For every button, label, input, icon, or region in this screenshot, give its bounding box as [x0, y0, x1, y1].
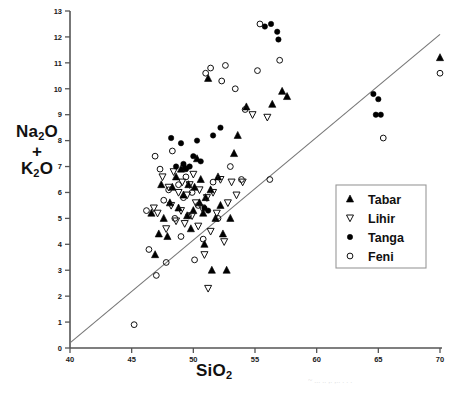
- data-point-tanga: [187, 164, 192, 169]
- data-point-tanga: [194, 138, 199, 143]
- data-point-feni: [257, 21, 263, 27]
- data-point-lihir: [233, 192, 240, 199]
- legend-label: Lihir: [368, 212, 395, 226]
- data-point-feni: [227, 164, 233, 170]
- y-tick-label: 3: [58, 266, 62, 275]
- y-axis-title-line1: Na2O: [6, 123, 68, 143]
- y-tick-label: 11: [54, 59, 62, 68]
- data-point-feni: [161, 197, 167, 203]
- data-point-tabar: [164, 233, 171, 240]
- data-point-tanga: [378, 112, 383, 117]
- data-point-feni: [178, 234, 184, 240]
- y-tick-label: 0: [58, 344, 62, 353]
- x-axis-title: SiO2: [196, 361, 232, 381]
- y-tick-label: 12: [54, 33, 62, 42]
- legend-label: Tanga: [368, 231, 405, 245]
- data-point-tabar: [230, 150, 237, 157]
- data-point-feni: [152, 153, 158, 159]
- data-points: [131, 21, 443, 328]
- data-point-tanga: [168, 135, 173, 140]
- data-point-tanga: [218, 125, 223, 130]
- data-point-tanga: [181, 161, 186, 166]
- data-point-feni: [380, 135, 386, 141]
- data-point-tabar: [279, 87, 286, 94]
- data-point-feni: [203, 70, 209, 76]
- data-point-tabar: [219, 230, 226, 237]
- series-feni: [131, 21, 443, 328]
- data-point-feni: [277, 57, 283, 63]
- data-point-lihir: [228, 179, 235, 186]
- data-point-tabar: [152, 251, 159, 258]
- data-point-lihir: [221, 239, 228, 246]
- data-point-tanga: [376, 96, 381, 101]
- data-point-lihir: [175, 189, 182, 196]
- data-point-lihir: [181, 221, 188, 228]
- data-point-feni: [146, 247, 152, 253]
- chart-figure: 40455055606570012345678910111213 TabarLi…: [0, 0, 462, 393]
- data-point-tabar: [208, 266, 215, 273]
- data-point-feni: [219, 78, 225, 84]
- y-axis-title: Na2O + K2O: [6, 123, 68, 180]
- data-point-tabar: [197, 176, 204, 183]
- y-tick-label: 1: [58, 318, 62, 327]
- data-point-lihir: [264, 114, 271, 121]
- data-point-tabar: [223, 266, 230, 273]
- data-point-feni: [210, 179, 216, 185]
- data-point-feni: [131, 322, 137, 328]
- data-point-lihir: [207, 228, 214, 235]
- data-point-tabar: [227, 214, 234, 221]
- data-point-lihir: [159, 174, 166, 181]
- y-tick-label: 13: [54, 7, 62, 16]
- y-tick-label: 4: [58, 240, 63, 249]
- data-point-tanga: [178, 141, 183, 146]
- data-point-tanga: [373, 112, 378, 117]
- data-point-tanga: [275, 29, 280, 34]
- data-point-lihir: [201, 252, 208, 259]
- data-point-tabar: [158, 181, 165, 188]
- x-tick-label: 65: [374, 355, 382, 364]
- data-point-feni: [267, 177, 273, 183]
- data-point-tabar: [234, 131, 241, 138]
- data-point-feni: [192, 257, 198, 263]
- x-tick-label: 40: [66, 355, 74, 364]
- scatter-plot-canvas: 40455055606570012345678910111213 TabarLi…: [0, 0, 462, 393]
- data-point-tabar: [436, 54, 443, 61]
- legend-marker-tanga: [347, 234, 352, 239]
- y-axis-title-line2: K2O: [6, 160, 68, 180]
- data-point-tabar: [269, 100, 276, 107]
- data-point-lihir: [195, 223, 202, 230]
- data-point-lihir: [224, 200, 231, 207]
- data-point-tanga: [173, 164, 178, 169]
- data-point-lihir: [205, 285, 212, 292]
- data-point-lihir: [249, 112, 256, 119]
- y-tick-label: 10: [54, 85, 62, 94]
- data-point-feni: [200, 236, 206, 242]
- data-point-tabar: [155, 230, 162, 237]
- y-axis-title-plus: +: [6, 143, 68, 161]
- data-point-tabar: [187, 225, 194, 232]
- data-point-tanga: [198, 159, 203, 164]
- x-tick-label: 45: [127, 355, 135, 364]
- y-tick-label: 2: [58, 292, 62, 301]
- data-point-tanga: [210, 133, 215, 138]
- x-tick-label: 70: [436, 355, 444, 364]
- data-point-feni: [144, 208, 150, 214]
- data-point-tabar: [217, 201, 224, 208]
- data-point-tanga: [191, 153, 196, 158]
- chart-legend[interactable]: TabarLihirTangaFeni: [336, 185, 426, 268]
- x-tick-label: 55: [251, 355, 259, 364]
- data-point-lihir: [190, 171, 197, 178]
- data-point-feni: [169, 148, 175, 154]
- scan-artifact-text: ~ ... .. ,. ,.. . . .: [308, 376, 458, 392]
- data-point-feni: [232, 86, 238, 92]
- data-point-feni: [208, 65, 214, 71]
- x-tick-label: 60: [312, 355, 320, 364]
- data-point-feni: [157, 166, 163, 172]
- y-tick-label: 6: [58, 188, 62, 197]
- data-point-feni: [255, 68, 261, 74]
- data-point-lihir: [163, 226, 170, 233]
- data-point-feni: [223, 63, 229, 69]
- legend-label: Tabar: [368, 193, 401, 207]
- data-point-feni: [153, 273, 159, 279]
- y-tick-label: 5: [58, 214, 62, 223]
